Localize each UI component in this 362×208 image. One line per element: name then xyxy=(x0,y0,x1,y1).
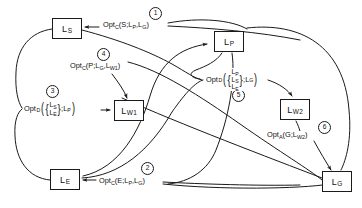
edge-label-6-args3: ) xyxy=(305,130,307,139)
node-LP-label: L xyxy=(224,37,229,47)
node-LW2-label: L xyxy=(287,105,292,115)
edge-label-1-args: (S;L xyxy=(119,20,133,29)
node-LG-label: L xyxy=(332,177,337,187)
edge-label-6-op: Opt xyxy=(267,130,279,139)
edge-label-4-args: (P;L xyxy=(86,61,100,70)
step-badge-6: 6 xyxy=(318,121,331,134)
step-badge-4: 4 xyxy=(97,48,110,61)
node-LW1-sub: W1 xyxy=(127,109,137,116)
edge-label-2-args: (E;L xyxy=(115,176,129,185)
edge-label-4-opsub: C xyxy=(82,65,86,71)
node-LP[interactable]: LP xyxy=(214,31,244,52)
edge-label-6-args: (G;L xyxy=(283,130,297,139)
node-LP-sub: P xyxy=(230,40,235,47)
edge-label-4-args2: ,L xyxy=(104,61,110,70)
edge-label-1: OptC(S;LP,LG) xyxy=(102,21,150,29)
edge-label-4-sub2: W1 xyxy=(110,65,118,71)
edge-label-1-args3: ) xyxy=(146,20,148,29)
edge-label-5-target-sub: G xyxy=(249,78,253,83)
edge-label-1-op: Opt xyxy=(103,20,115,29)
edge-label-6: OptA(G;LW2) xyxy=(266,131,308,139)
edge-label-3-paren-r: ) xyxy=(72,102,75,115)
edge-label-3-target-sub: P xyxy=(67,108,70,113)
edge-label-2: OptC(E;LP,LG) xyxy=(98,177,146,185)
edge-label-4-op: Opt xyxy=(70,61,82,70)
node-LE-sub: E xyxy=(66,178,71,185)
edge-label-1-opsub: C xyxy=(115,24,119,30)
edge-LP-to-label2 xyxy=(163,182,300,185)
edge-label-4: OptC(P;LG,LW1) xyxy=(69,62,121,70)
edge-label-1-sub1: P xyxy=(132,24,136,30)
edge-label-5-member-2: LE xyxy=(232,83,239,91)
step-badge-4-text: 4 xyxy=(102,51,106,58)
edge-LE-to-label3 xyxy=(15,109,50,180)
node-LW1[interactable]: LW1 xyxy=(114,100,144,121)
step-badge-1-text: 1 xyxy=(154,10,158,17)
edge-label-5-op: Opt xyxy=(206,76,218,84)
edge-label-5-paren-r: ) xyxy=(254,73,257,86)
edge-label6-to-LG xyxy=(314,141,331,170)
edge-LP-to-label1 xyxy=(168,20,247,29)
node-LG[interactable]: LG xyxy=(322,171,352,192)
edge-label-3-paren-l: ( xyxy=(41,102,44,115)
node-LE[interactable]: LE xyxy=(50,169,80,190)
edge-label4-to-LW1 xyxy=(112,74,127,98)
node-LW2[interactable]: LW2 xyxy=(280,99,310,120)
node-LW2-sub: W2 xyxy=(293,108,303,115)
edge-label-5-members: LPLSLE xyxy=(232,68,239,91)
edge-label-2-opsub: C xyxy=(111,180,115,186)
step-badge-1: 1 xyxy=(149,7,162,20)
edge-label-5-member-0: LP xyxy=(232,68,239,76)
node-LS[interactable]: LS xyxy=(52,18,82,39)
step-badge-6-text: 6 xyxy=(323,124,327,131)
edge-label-6-opsub: A xyxy=(279,134,283,140)
step-badge-3: 3 xyxy=(46,85,59,98)
node-LS-label: L xyxy=(62,24,67,34)
edge-label-3-members: LSLE xyxy=(50,101,57,116)
node-LW1-label: L xyxy=(121,106,126,116)
edge-label-5-brace-l: { xyxy=(228,74,231,86)
edge-label-5-paren-l: ( xyxy=(223,73,226,86)
step-badge-5-text: 5 xyxy=(237,92,241,99)
edge-label-3-opsub: D xyxy=(36,108,40,113)
edge-label-3-brace-l: { xyxy=(46,103,49,115)
step-badge-2: 2 xyxy=(141,162,154,175)
step-badge-3-text: 3 xyxy=(51,88,55,95)
edge-label-3-op: Opt xyxy=(24,105,36,113)
edge-label-1-sub2: G xyxy=(142,24,146,30)
edge-label-3: OptD({LSLE};LP) xyxy=(24,101,76,116)
edge-label-2-sub2: G xyxy=(138,180,142,186)
edge-LS-to-label3 xyxy=(16,29,52,108)
edge-label-3-brace-r: } xyxy=(57,103,60,115)
edge-label-4-sub1: G xyxy=(99,65,103,71)
edge-label-2-sub1: P xyxy=(128,180,132,186)
edge-label-2-op: Opt xyxy=(99,176,111,185)
edge-label-2-args3: ) xyxy=(142,176,144,185)
diagram-canvas: LS LP LW1 LW2 LE LG 1 OptC(S;LP,LG) 2 Op… xyxy=(0,0,362,208)
edge-label-3-member-0: LS xyxy=(50,101,57,109)
node-LG-sub: G xyxy=(337,180,342,187)
edge-label-5-brace-r: } xyxy=(239,74,242,86)
step-badge-2-text: 2 xyxy=(146,165,150,172)
edge-label-5-opsub: D xyxy=(218,78,222,83)
node-LE-label: L xyxy=(60,175,65,185)
edge-label-5: OptD({LPLSLE};LG) xyxy=(206,68,258,91)
node-LS-sub: S xyxy=(68,27,73,34)
edge-label5-to-LW2 xyxy=(268,80,292,96)
edge-label-6-sub1: W2 xyxy=(297,134,305,140)
edge-label-4-args3: ) xyxy=(118,61,120,70)
